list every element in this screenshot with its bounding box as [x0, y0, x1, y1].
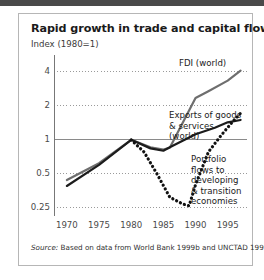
series-annotation-label: Exports of goods & services (world) [169, 110, 241, 142]
x-axis-tick-label: 1970 [50, 220, 84, 230]
page-top-band [0, 0, 264, 6]
y-axis-tick-label: 0.25 [22, 202, 50, 212]
series-annotation-label: FDI (world) [179, 58, 226, 69]
x-axis-tick-label: 1975 [82, 220, 116, 230]
figure-page: Rapid growth in trade and capital flows … [0, 0, 264, 280]
source-note: Source: Based on data from World Bank 19… [31, 243, 264, 252]
source-text: Based on data from World Bank 1999b and … [58, 243, 264, 252]
source-label: Source: [31, 243, 58, 252]
x-axis-tick-label: 1995 [211, 220, 245, 230]
x-axis-tick-label: 1990 [179, 220, 213, 230]
x-axis-tick-label: 1980 [114, 220, 148, 230]
y-axis-tick-label: 2 [22, 100, 50, 110]
chart-plot-area: 4210.50.25197019751980198519901995FDI (w… [19, 14, 254, 267]
figure-container: Rapid growth in trade and capital flows … [18, 13, 253, 266]
y-axis-tick-label: 0.5 [22, 168, 50, 178]
y-axis-tick-label: 4 [22, 66, 50, 76]
y-axis-tick-label: 1 [22, 134, 50, 144]
x-axis-tick-label: 1985 [146, 220, 180, 230]
series-annotation-label: Portfolio flows to developing & transiti… [191, 154, 241, 207]
